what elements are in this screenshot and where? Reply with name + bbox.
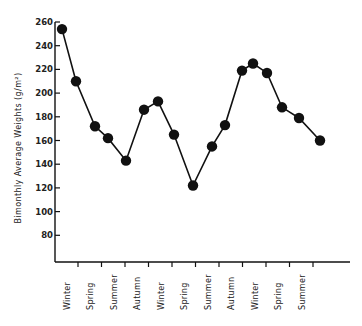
- x-tick-label: Autumn: [133, 277, 142, 310]
- data-point: [57, 24, 67, 34]
- y-tick-label: 260: [35, 17, 53, 27]
- data-point: [220, 120, 230, 130]
- y-tick-label: 200: [35, 88, 53, 98]
- x-axis: WinterSpringSummerAutumnWinterSpringSumm…: [55, 262, 350, 310]
- data-point: [90, 121, 100, 131]
- x-tick-label: Summer: [298, 274, 307, 310]
- x-tick-label: Spring: [180, 282, 189, 310]
- data-point: [237, 65, 247, 75]
- x-tick-label: Winter: [157, 281, 166, 310]
- y-tick-label: 160: [35, 136, 53, 146]
- data-point: [315, 135, 325, 145]
- data-point: [139, 104, 149, 114]
- x-tick-label: Summer: [110, 274, 119, 310]
- y-axis-title: Bimonthly Average Weights (g/m²): [14, 73, 23, 224]
- data-point: [262, 68, 272, 78]
- y-tick-label: 220: [35, 64, 53, 74]
- data-point: [153, 96, 163, 106]
- data-point: [248, 58, 258, 68]
- x-tick-label: Spring: [86, 282, 95, 310]
- data-point: [188, 180, 198, 190]
- data-point: [207, 141, 217, 151]
- line-chart: 80100120140160180200220240260 WinterSpri…: [0, 0, 362, 326]
- y-tick-label: 180: [35, 112, 53, 122]
- y-axis: 80100120140160180200220240260: [35, 17, 60, 262]
- y-tick-label: 240: [35, 41, 53, 51]
- data-point: [103, 133, 113, 143]
- data-point: [294, 113, 304, 123]
- x-tick-label: Winter: [251, 281, 260, 310]
- data-point: [277, 102, 287, 112]
- y-tick-label: 120: [35, 183, 53, 193]
- data-point: [71, 76, 81, 86]
- data-series: [57, 24, 325, 191]
- y-tick-label: 100: [35, 207, 53, 217]
- x-tick-label: Spring: [274, 282, 283, 310]
- y-tick-label: 140: [35, 159, 53, 169]
- x-tick-label: Summer: [204, 274, 213, 310]
- data-point: [169, 129, 179, 139]
- x-tick-label: Autumn: [227, 277, 236, 310]
- x-tick-label: Winter: [63, 281, 72, 310]
- data-point: [121, 155, 131, 165]
- y-tick-label: 80: [41, 230, 53, 240]
